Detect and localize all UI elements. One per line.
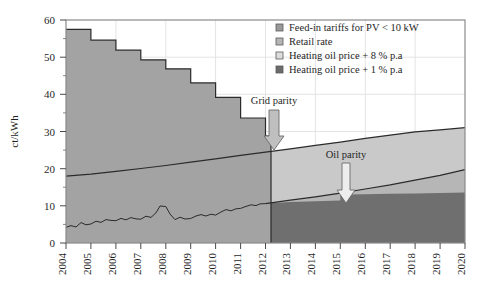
x-tick-label-2012: 2012 bbox=[256, 253, 268, 275]
x-tick-label-2015: 2015 bbox=[330, 253, 342, 276]
legend-label-retail-rate: Retail rate bbox=[289, 36, 333, 47]
x-tick-label-2019: 2019 bbox=[430, 253, 442, 276]
x-tick-label-2016: 2016 bbox=[355, 253, 367, 276]
oil-parity-label: Oil parity bbox=[326, 149, 367, 160]
x-tick-label-2020: 2020 bbox=[455, 253, 467, 276]
x-tick-label-2014: 2014 bbox=[305, 253, 317, 276]
x-tick-label-2007: 2007 bbox=[131, 253, 143, 276]
x-tick-label-2005: 2005 bbox=[81, 253, 93, 276]
legend-swatch-retail-rate bbox=[276, 38, 283, 45]
x-tick-label-2013: 2013 bbox=[280, 253, 292, 276]
x-tick-label-2009: 2009 bbox=[181, 253, 193, 276]
x-axis-ticks bbox=[66, 243, 465, 249]
x-tick-label-2017: 2017 bbox=[380, 253, 392, 276]
legend-label-heating-oil-8pct: Heating oil price + 8 % p.a bbox=[289, 50, 403, 61]
y-tick-label-50: 50 bbox=[44, 51, 56, 63]
energy-price-chart: 60 50 40 30 20 10 0 ct/kWh bbox=[0, 0, 494, 295]
y-axis-title: ct/kWh bbox=[8, 115, 20, 148]
x-tick-label-2008: 2008 bbox=[156, 253, 168, 276]
x-tick-label-2011: 2011 bbox=[231, 253, 243, 275]
legend-label-heating-oil-1pct: Heating oil price + 1 % p.a bbox=[289, 64, 403, 75]
x-tick-label-2006: 2006 bbox=[106, 253, 118, 276]
y-axis-ticks bbox=[60, 20, 66, 243]
legend-label-feed-in-tariffs: Feed-in tariffs for PV < 10 kW bbox=[289, 22, 419, 33]
legend-swatch-heating-oil-8pct bbox=[276, 52, 283, 59]
x-tick-label-2004: 2004 bbox=[56, 253, 68, 276]
y-tick-label-40: 40 bbox=[44, 88, 56, 100]
x-tick-label-2018: 2018 bbox=[405, 253, 417, 276]
y-tick-label-10: 10 bbox=[44, 200, 56, 212]
legend-swatch-feed-in-tariffs bbox=[276, 24, 283, 31]
x-tick-label-2010: 2010 bbox=[206, 253, 218, 276]
y-tick-label-60: 60 bbox=[44, 14, 56, 26]
y-tick-label-0: 0 bbox=[50, 237, 56, 249]
legend-swatch-heating-oil-1pct bbox=[276, 66, 283, 73]
chart-container: 60 50 40 30 20 10 0 ct/kWh bbox=[0, 0, 494, 295]
y-tick-label-30: 30 bbox=[44, 126, 56, 138]
y-tick-label-20: 20 bbox=[44, 163, 56, 175]
grid-parity-label: Grid parity bbox=[251, 95, 298, 106]
